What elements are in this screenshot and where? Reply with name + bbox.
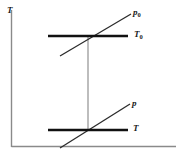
curve-label-isotherm-upper: T0: [134, 30, 143, 41]
curve-label-isobar-lower-text: p: [132, 98, 137, 108]
curve-label-isotherm-upper-subscript: 0: [140, 33, 143, 40]
isobar-lower-line: [60, 104, 130, 148]
curve-label-isobar-upper-subscript: 0: [138, 11, 141, 18]
curve-label-isotherm-lower: T: [133, 124, 139, 135]
curve-label-isotherm-lower-text: T: [133, 123, 139, 133]
curve-label-isobar-lower: p: [132, 99, 137, 110]
curve-label-isobar-upper: p0: [133, 8, 141, 19]
axis-label-temperature: T: [7, 6, 13, 15]
plot-canvas: [0, 0, 176, 160]
thermodynamic-phase-diagram: T p0 T0 p T: [0, 0, 176, 160]
